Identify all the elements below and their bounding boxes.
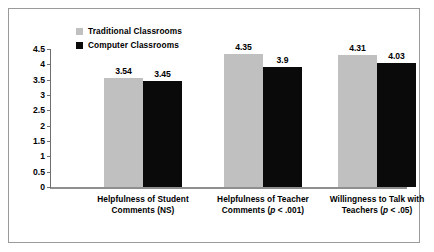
y-tick-label: 2.5 [33, 106, 45, 115]
category-label-line2-pre: Comments ( [222, 205, 270, 215]
y-tick-label: 2 [40, 121, 45, 130]
y-tick-mark [47, 95, 51, 96]
bar-value-label: 3.45 [154, 69, 171, 79]
category-label-line1: Willingness to Talk with [330, 194, 425, 204]
category-label-line2-post: < .001) [275, 205, 304, 215]
y-tick-mark [47, 126, 51, 127]
bar-value-label: 3.54 [115, 66, 132, 76]
bar-value-label: 3.9 [277, 55, 289, 65]
category-label-line2-pre: Comments (NS) [112, 205, 175, 215]
category-label-0: Helpfulness of Student Comments (NS) [73, 194, 213, 216]
category-label-line2-post: < .05) [388, 205, 412, 215]
y-tick-label: 0.5 [33, 167, 45, 176]
bar-group0-traditional: 3.54 [104, 78, 143, 187]
y-tick-label: 4.5 [33, 45, 45, 54]
plot-area: 0 0.5 1 1.5 2 2.5 3 3.5 [50, 44, 412, 188]
bar-group1-computer: 3.9 [263, 67, 302, 187]
bar-value-label: 4.35 [235, 42, 252, 52]
bar-chart-figure: Traditional Classrooms Computer Classroo… [0, 0, 434, 252]
category-label-line1: Helpfulness of Teacher [217, 194, 309, 204]
y-tick-label: 4 [40, 60, 45, 69]
y-tick-mark [47, 141, 51, 142]
y-tick-mark [47, 64, 51, 65]
bar-group1-traditional: 4.35 [224, 54, 263, 187]
bar-value-label: 4.03 [388, 51, 405, 61]
x-axis-baseline [50, 187, 407, 189]
y-tick-mark [47, 187, 51, 188]
bar-group2-computer: 4.03 [377, 63, 416, 187]
y-tick-mark [47, 49, 51, 50]
y-tick-label: 1 [40, 152, 45, 161]
y-tick-mark [47, 172, 51, 173]
legend-swatch-traditional-icon [76, 28, 83, 35]
y-tick-label: 1.5 [33, 137, 45, 146]
y-tick-label: 0 [40, 183, 45, 192]
bar-group2-traditional: 4.31 [338, 55, 377, 187]
category-label-line2-pre: Teachers ( [342, 205, 383, 215]
y-tick-label: 3 [40, 91, 45, 100]
bar-value-label: 4.31 [349, 43, 366, 53]
y-tick-mark [47, 80, 51, 81]
bar-group0-computer: 3.45 [143, 81, 182, 187]
y-axis-line [50, 49, 51, 188]
category-label-2: Willingness to Talk with Teachers (p < .… [307, 194, 434, 216]
y-tick-mark [47, 156, 51, 157]
y-tick-label: 3.5 [33, 75, 45, 84]
category-label-line1: Helpfulness of Student [97, 194, 188, 204]
y-tick-mark [47, 110, 51, 111]
legend-item-traditional: Traditional Classrooms [76, 26, 182, 37]
legend-label-traditional: Traditional Classrooms [88, 27, 182, 36]
